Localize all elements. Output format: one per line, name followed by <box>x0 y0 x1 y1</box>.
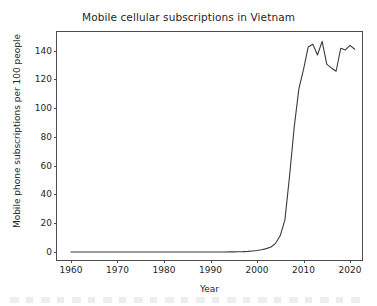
data-series-line <box>71 41 355 252</box>
x-axis-label: Year <box>56 284 363 294</box>
x-tick-mark <box>71 260 72 263</box>
chart-title: Mobile cellular subscriptions in Vietnam <box>0 11 377 23</box>
x-tick-label: 2010 <box>292 265 315 275</box>
line-chart-svg <box>57 32 364 262</box>
y-tick-label: 120 <box>35 74 52 84</box>
chart-figure: Mobile cellular subscriptions in Vietnam… <box>0 0 377 306</box>
x-tick-mark <box>211 260 212 263</box>
x-tick-label: 1970 <box>106 265 129 275</box>
plot-area: 0204060801001201401960197019801990200020… <box>56 31 363 261</box>
x-tick-mark <box>304 260 305 263</box>
y-tick-label: 140 <box>35 46 52 56</box>
y-tick-mark <box>54 79 57 80</box>
y-tick-label: 60 <box>41 161 52 171</box>
y-tick-mark <box>54 194 57 195</box>
x-tick-label: 1990 <box>199 265 222 275</box>
y-tick-label: 0 <box>46 247 52 257</box>
y-tick-mark <box>54 252 57 253</box>
y-tick-mark <box>54 51 57 52</box>
x-tick-label: 2000 <box>246 265 269 275</box>
y-tick-mark <box>54 223 57 224</box>
page-bottom-artifact <box>10 297 367 303</box>
y-tick-label: 100 <box>35 103 52 113</box>
y-tick-mark <box>54 166 57 167</box>
x-tick-mark <box>350 260 351 263</box>
y-tick-label: 40 <box>41 189 52 199</box>
x-tick-label: 2020 <box>339 265 362 275</box>
x-tick-mark <box>257 260 258 263</box>
y-tick-mark <box>54 108 57 109</box>
y-tick-label: 80 <box>41 132 52 142</box>
x-tick-mark <box>164 260 165 263</box>
x-tick-label: 1960 <box>59 265 82 275</box>
x-tick-label: 1980 <box>153 265 176 275</box>
x-tick-mark <box>117 260 118 263</box>
y-tick-label: 20 <box>41 218 52 228</box>
y-axis-label: Mobile phone subscriptions per 100 peopl… <box>12 16 22 246</box>
y-tick-mark <box>54 137 57 138</box>
